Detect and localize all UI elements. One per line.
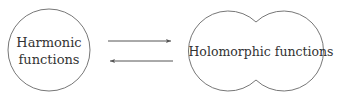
harmonic-label: Harmonic functions xyxy=(9,34,89,68)
harmonic-label-line2: functions xyxy=(9,51,89,68)
holomorphic-label: Holomorphic functions xyxy=(186,43,336,60)
arrow-to-harmonic xyxy=(110,59,173,63)
arrow-to-holomorphic xyxy=(108,39,171,43)
harmonic-label-line1: Harmonic xyxy=(9,34,89,51)
